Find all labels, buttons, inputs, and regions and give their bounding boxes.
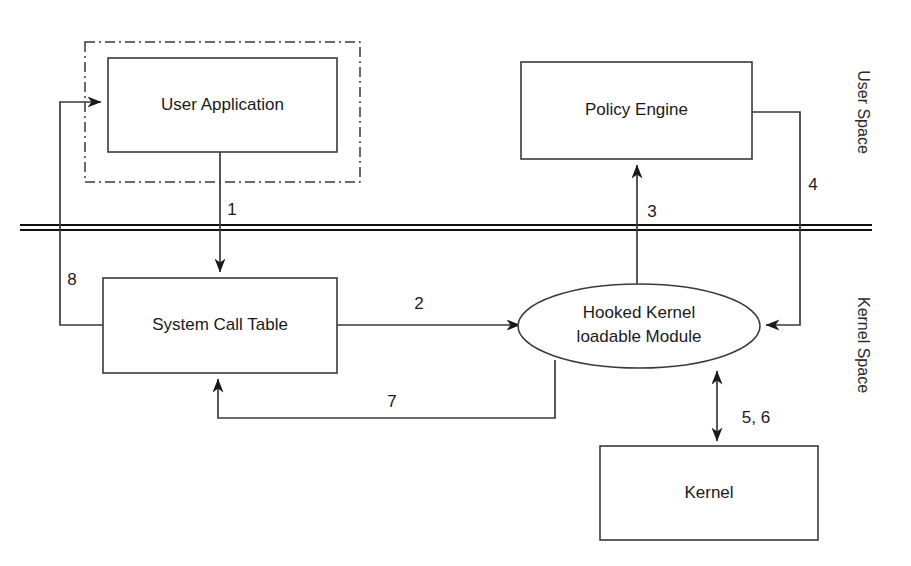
edge-label-8: 8 xyxy=(67,270,76,289)
user-space-label: User Space xyxy=(855,70,872,154)
kernel-label: Kernel xyxy=(684,483,733,502)
node-user-application[interactable]: User Application xyxy=(108,58,337,152)
edge-label-2: 2 xyxy=(414,294,423,313)
node-system-call-table[interactable]: System Call Table xyxy=(103,278,337,373)
diagram-canvas: User Application Policy Engine System Ca… xyxy=(0,0,911,566)
edge-8-flow xyxy=(60,102,103,325)
system-call-table-label: System Call Table xyxy=(152,315,288,334)
edge-label-5-6: 5, 6 xyxy=(742,408,770,427)
node-policy-engine[interactable]: Policy Engine xyxy=(521,62,752,159)
edge-label-3: 3 xyxy=(647,202,656,221)
user-kernel-boundary xyxy=(20,225,872,230)
edge-label-4: 4 xyxy=(808,175,817,194)
policy-engine-label: Policy Engine xyxy=(585,100,688,119)
kernel-space-label: Kernel Space xyxy=(855,297,872,393)
node-kernel[interactable]: Kernel xyxy=(600,446,818,540)
node-hooked-kernel-module[interactable]: Hooked Kernel loadable Module xyxy=(518,284,760,368)
edge-label-7: 7 xyxy=(387,392,396,411)
user-application-label: User Application xyxy=(161,95,284,114)
hooked-kernel-module-label-line1: Hooked Kernel xyxy=(583,303,695,322)
hooked-kernel-module-label-line2: loadable Module xyxy=(577,327,702,346)
edge-label-1: 1 xyxy=(227,200,236,219)
architecture-diagram: User Application Policy Engine System Ca… xyxy=(0,0,911,566)
edge-4-flow xyxy=(752,112,800,325)
